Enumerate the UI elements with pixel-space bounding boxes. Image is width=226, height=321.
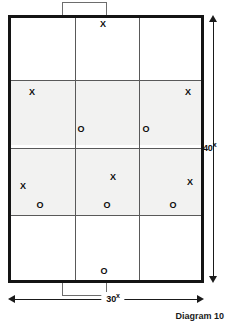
diagram-caption: Diagram 10 — [175, 311, 224, 321]
player-marker-o: O — [103, 201, 110, 210]
court-outline — [8, 15, 204, 283]
player-marker-o: O — [142, 125, 149, 134]
gridline-horizontal-2 — [11, 148, 201, 149]
shaded-band-upper — [11, 80, 201, 145]
arrowhead-down-icon — [209, 276, 217, 283]
dimension-label-vertical: 40x — [203, 141, 216, 153]
player-marker-o: O — [77, 125, 84, 134]
gridline-vertical-2 — [139, 18, 140, 280]
player-marker-o: O — [169, 201, 176, 210]
arrowhead-right-icon — [197, 295, 204, 303]
gridline-horizontal-1 — [11, 80, 201, 81]
player-marker-x: X — [187, 178, 193, 187]
gridline-horizontal-3 — [11, 215, 201, 216]
dimension-label-horizontal: 30x — [101, 292, 124, 304]
top-goal-notch — [62, 2, 107, 15]
diagram-canvas: XXXOOXXXOOOO 40x 30x Diagram 10 — [0, 0, 226, 321]
player-marker-x: X — [29, 88, 35, 97]
player-marker-x: X — [110, 173, 116, 182]
player-marker-x: X — [185, 88, 191, 97]
player-marker-x: X — [20, 182, 26, 191]
player-marker-o: O — [100, 267, 107, 276]
gridline-vertical-1 — [75, 18, 76, 280]
player-marker-o: O — [36, 201, 43, 210]
player-marker-x: X — [100, 20, 106, 29]
